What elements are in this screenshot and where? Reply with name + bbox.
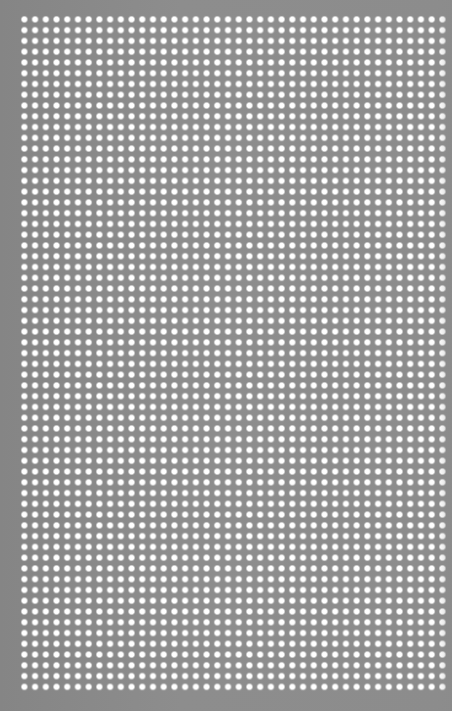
perforated-surface	[0, 0, 452, 711]
right-edge-shading	[438, 0, 452, 711]
dot-grid-pattern	[19, 14, 448, 693]
